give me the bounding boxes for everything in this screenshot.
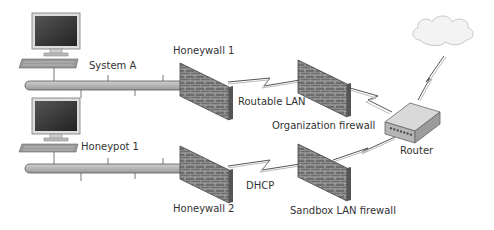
bus-honeypot-1 <box>25 152 185 181</box>
link-dhcp <box>228 160 300 170</box>
bus-system-a <box>25 68 185 98</box>
honeywall-2-firewall-icon <box>180 146 233 203</box>
label-honeywall-1: Honeywall 1 <box>173 45 234 56</box>
sandbox-lan-firewall-icon <box>298 144 351 201</box>
label-routable-lan: Routable LAN <box>238 96 306 107</box>
internet-cloud-icon <box>413 16 473 46</box>
label-dhcp: DHCP <box>246 180 274 191</box>
label-organization-firewall: Organization firewall <box>272 120 375 131</box>
label-honeypot-1: Honeypot 1 <box>81 141 139 152</box>
computer-honeypot-1-icon <box>19 98 80 152</box>
label-honeywall-2: Honeywall 2 <box>173 203 234 214</box>
organization-firewall-icon <box>298 60 351 117</box>
router-icon <box>385 103 440 143</box>
link-sandbox-router <box>333 137 395 160</box>
label-router: Router <box>400 145 433 156</box>
label-sandbox-lan-firewall: Sandbox LAN firewall <box>290 205 396 216</box>
honeywall-1-firewall-icon <box>180 63 233 120</box>
computer-system-a-icon <box>19 13 80 68</box>
label-system-a: System A <box>89 60 136 71</box>
